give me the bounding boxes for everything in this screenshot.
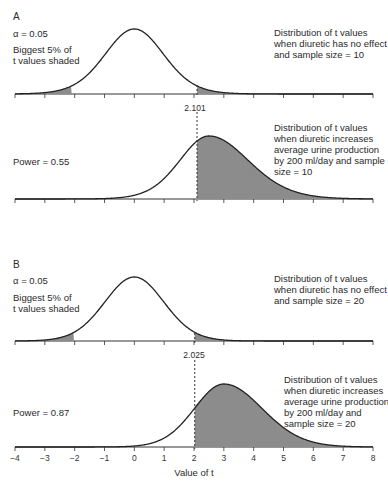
panel-a-alt-desc-2: when diuretic increases (273, 133, 374, 144)
panel-b: B α = 0.05 Biggest 5% of t values shaded… (13, 259, 388, 451)
panel-a-null-desc-3: and sample size = 10 (274, 49, 364, 60)
panel-a-null-desc-2: when diuretic has no effect (273, 38, 387, 49)
x-tick-labels: −4−3−2−1012345678 (10, 453, 375, 463)
panel-a-alt-desc-3: average urine production (274, 144, 379, 155)
panel-b-alt-desc-4: by 200 ml/day and (284, 407, 362, 418)
panel-b-critical-label: 2.025 (183, 350, 205, 360)
x-tick-label: 4 (251, 453, 256, 463)
x-tick-label: 8 (371, 453, 376, 463)
panel-b-alt-desc-2: when diuretic increases (283, 385, 384, 396)
x-tick-label: 3 (221, 453, 226, 463)
x-tick-label: 5 (281, 453, 286, 463)
panel-a-alpha-label: α = 0.05 (13, 28, 48, 39)
panel-b-shaded-note-line1: Biggest 5% of (13, 292, 72, 303)
x-tick-label: 6 (311, 453, 316, 463)
x-tick-label: −4 (10, 453, 20, 463)
panel-b-alt-desc-5: sample size = 20 (284, 418, 356, 429)
x-axis-label: Value of t (174, 467, 214, 478)
panel-b-alt-desc-1: Distribution of t values (284, 374, 378, 385)
panel-b-power-label: Power = 0.87 (13, 407, 69, 418)
x-tick-label: −2 (70, 453, 80, 463)
panel-a: A α = 0.05 Biggest 5% of t values shaded… (13, 11, 387, 203)
panel-b-shaded-note-line2: t values shaded (13, 303, 80, 314)
panel-a-letter: A (13, 11, 20, 22)
panel-b-null-desc-1: Distribution of t values (274, 273, 368, 284)
panel-a-power-label: Power = 0.55 (13, 156, 69, 167)
panel-a-alt-desc-4: by 200 ml/day and sample (274, 155, 385, 166)
x-tick-label: 7 (341, 453, 346, 463)
x-tick-label: 0 (132, 453, 137, 463)
panel-b-alt-desc-3: average urine production (284, 396, 388, 407)
panel-a-shaded-note-line1: Biggest 5% of (13, 44, 72, 55)
power-chart: A α = 0.05 Biggest 5% of t values shaded… (0, 0, 388, 484)
x-tick-label: 1 (162, 453, 167, 463)
panel-b-alpha-label: α = 0.05 (13, 275, 48, 286)
panel-a-alt-desc-5: size = 10 (274, 166, 312, 177)
panel-a-null-desc-1: Distribution of t values (274, 27, 368, 38)
panel-a-critical-label: 2.101 (184, 103, 206, 113)
x-tick-label: 2 (192, 453, 197, 463)
panel-b-null-desc-3: and sample size = 20 (274, 295, 364, 306)
x-tick-label: −3 (40, 453, 50, 463)
panel-a-shaded-note-line2: t values shaded (13, 55, 80, 66)
panel-b-null-desc-2: when diuretic has no effect (273, 284, 387, 295)
panel-b-letter: B (13, 259, 20, 270)
panel-a-alt-desc-1: Distribution of t values (274, 122, 368, 133)
x-tick-label: −1 (100, 453, 110, 463)
